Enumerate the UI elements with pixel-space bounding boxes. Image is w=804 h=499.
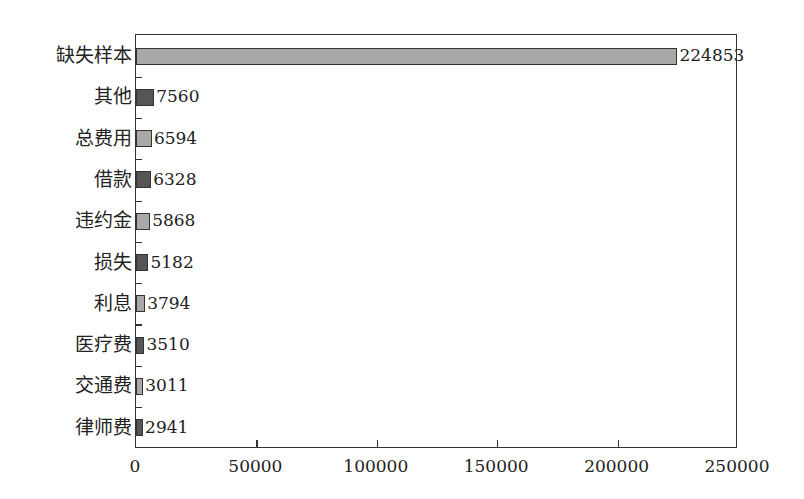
bar-value-label: 7560 [156, 88, 199, 105]
category-label: 借款 [94, 169, 132, 189]
y-axis-tick [136, 118, 142, 119]
y-axis-tick [136, 201, 142, 202]
bar [136, 378, 143, 395]
x-axis-tick [256, 440, 257, 447]
y-axis-tick [136, 159, 142, 160]
bar-value-label: 224853 [679, 47, 744, 64]
bar [136, 419, 143, 436]
x-axis-tick [497, 440, 498, 447]
y-axis-tick [136, 283, 142, 284]
y-axis-tick [136, 407, 142, 408]
category-label: 律师费 [75, 417, 132, 437]
bar-value-label: 3011 [145, 377, 188, 394]
bar-value-label: 2941 [145, 419, 188, 436]
bar-value-label: 6328 [153, 171, 196, 188]
category-label: 缺失样本 [56, 45, 132, 65]
bar [136, 213, 150, 230]
x-axis-tick-label: 150000 [464, 456, 529, 476]
bar [136, 254, 148, 271]
category-label: 利息 [94, 293, 132, 313]
x-axis-tick [618, 440, 619, 447]
x-axis-tick-label: 250000 [705, 456, 770, 476]
bar [136, 48, 677, 65]
bar [136, 295, 145, 312]
category-label: 损失 [94, 252, 132, 272]
x-axis-tick [377, 440, 378, 447]
bar-value-label: 5182 [150, 254, 193, 271]
bar-value-label: 5868 [152, 212, 195, 229]
bar-value-label: 6594 [154, 130, 197, 147]
bar [136, 130, 152, 147]
y-axis-tick [136, 366, 142, 367]
category-label: 总费用 [75, 128, 132, 148]
bar [136, 337, 144, 354]
y-axis-tick [136, 324, 142, 325]
x-axis-tick-label: 200000 [584, 456, 649, 476]
bar-value-label: 3510 [146, 336, 189, 353]
category-label: 医疗费 [75, 334, 132, 354]
category-label: 交通费 [75, 375, 132, 395]
bar [136, 89, 154, 106]
plot-area: 2248537560659463285868518237943510301129… [135, 34, 737, 448]
x-axis-tick-label: 50000 [228, 456, 282, 476]
category-label: 违约金 [75, 210, 132, 230]
bar-value-label: 3794 [147, 295, 190, 312]
x-axis-tick-label: 100000 [343, 456, 408, 476]
y-axis-tick [136, 77, 142, 78]
y-axis-tick [136, 242, 142, 243]
category-label: 其他 [94, 86, 132, 106]
bar [136, 171, 151, 188]
x-axis-tick-label: 0 [130, 456, 141, 476]
